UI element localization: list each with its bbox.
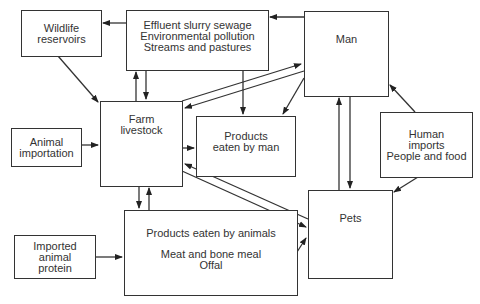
node-imported-animal-protein: Imported animal protein bbox=[14, 235, 96, 279]
node-label: protein bbox=[38, 263, 72, 274]
node-label: eaten by man bbox=[213, 142, 280, 153]
node-label: Pets bbox=[339, 213, 361, 224]
node-label: Products eaten by animals bbox=[146, 228, 276, 239]
node-label: Imported bbox=[33, 241, 76, 252]
node-label: Offal bbox=[199, 260, 222, 271]
node-label: importation bbox=[19, 148, 73, 159]
node-label: imports bbox=[408, 140, 444, 151]
arrow-products-animals-to-pets bbox=[297, 238, 306, 252]
arrow-man-to-farm bbox=[185, 71, 304, 108]
node-pets: Pets bbox=[308, 190, 393, 279]
node-animal-importation: Animal importation bbox=[11, 128, 82, 167]
node-label: Human bbox=[409, 129, 444, 140]
node-label: Streams and pastures bbox=[144, 42, 252, 53]
node-products-eaten-by-man: Products eaten by man bbox=[196, 116, 296, 177]
arrow-wildlife-to-farm bbox=[58, 56, 98, 102]
node-farm-livestock: Farm livestock bbox=[100, 101, 183, 187]
node-products-eaten-by-animals: Products eaten by animals Meat and bone … bbox=[124, 210, 298, 296]
node-label: Man bbox=[336, 34, 357, 45]
arrow-man-to-products-man bbox=[283, 78, 304, 114]
node-effluent: Effluent slurry sewage Environmental pol… bbox=[126, 10, 269, 71]
node-label: Animal bbox=[30, 137, 64, 148]
node-label: animal bbox=[39, 252, 71, 263]
arrow-human-imports-to-man bbox=[390, 85, 415, 112]
node-label: People and food bbox=[386, 151, 466, 162]
node-label: livestock bbox=[120, 125, 162, 136]
node-man: Man bbox=[304, 11, 389, 97]
node-label: reservoirs bbox=[37, 34, 85, 45]
arrow-human-imports-to-pets bbox=[394, 177, 418, 192]
node-label: Wildlife bbox=[44, 23, 79, 34]
node-human-imports: Human imports People and food bbox=[380, 112, 473, 178]
node-wildlife-reservoirs: Wildlife reservoirs bbox=[21, 10, 102, 57]
